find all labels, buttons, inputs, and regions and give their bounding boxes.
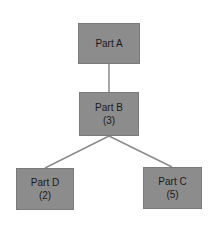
node-count: (3)	[103, 114, 115, 127]
node-count: (2)	[39, 189, 51, 202]
node-count: (5)	[166, 188, 178, 201]
node-label: Part D	[31, 176, 59, 189]
node-label: Part B	[95, 101, 123, 114]
node-part-d: Part D (2)	[16, 168, 74, 210]
node-part-b: Part B (3)	[79, 92, 139, 136]
node-part-a: Part A	[78, 23, 140, 64]
node-part-c: Part C (5)	[143, 167, 202, 209]
edge-b-d	[45, 136, 109, 168]
node-label: Part A	[95, 37, 122, 50]
edge-b-c	[109, 136, 172, 167]
node-label: Part C	[158, 175, 186, 188]
